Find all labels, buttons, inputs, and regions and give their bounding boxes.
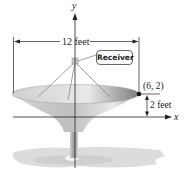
receiver-callout-line [78, 55, 96, 61]
point-6-2-marker [137, 92, 142, 97]
dish-diagram [0, 0, 187, 185]
depth-up-arrow-icon [145, 95, 149, 100]
dish-rim [12, 85, 139, 104]
width-label: 12 feet [62, 37, 90, 47]
receiver-label: Receiver [96, 50, 133, 65]
dish-stem [70, 128, 78, 158]
point-label: (6, 2) [143, 82, 164, 92]
width-left-arrow-icon [14, 40, 20, 44]
y-axis-arrow-icon [73, 13, 78, 20]
depth-down-arrow-icon [145, 112, 149, 117]
width-right-arrow-icon [133, 40, 139, 44]
depth-label: 2 feet [150, 101, 171, 111]
y-axis-label: y [72, 1, 76, 11]
x-axis-arrow-icon [165, 115, 172, 120]
ground-shadow [13, 147, 165, 168]
x-axis-label: x [174, 112, 178, 122]
